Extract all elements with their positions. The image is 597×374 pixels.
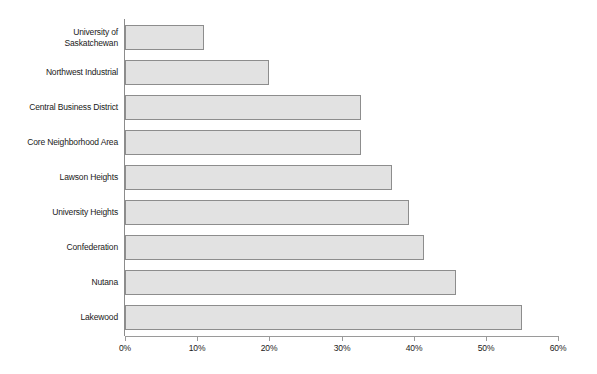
y-axis-label: Confederation — [0, 230, 118, 265]
x-axis-tick — [558, 336, 559, 341]
x-axis-tick — [342, 336, 343, 341]
y-axis-label-text: Central Business District — [0, 102, 118, 113]
bar-row — [125, 230, 558, 265]
bar — [125, 270, 456, 295]
y-axis-label: Lawson Heights — [0, 160, 118, 195]
x-axis-tick-label: 40% — [392, 343, 436, 353]
bar-row — [125, 265, 558, 300]
x-axis-tick — [197, 336, 198, 341]
y-axis-label-text: Core Neighborhood Area — [0, 137, 118, 148]
x-axis-tick-label: 50% — [464, 343, 508, 353]
y-axis-label: Lakewood — [0, 300, 118, 335]
x-axis-tick-label: 30% — [320, 343, 364, 353]
y-axis-label-text: Confederation — [0, 242, 118, 253]
y-axis-label-text: University ofSaskatchewan — [0, 27, 118, 49]
bar — [125, 305, 522, 330]
y-axis-label: Core Neighborhood Area — [0, 125, 118, 160]
bar-chart: University ofSaskatchewanNorthwest Indus… — [0, 0, 597, 374]
bar-row — [125, 55, 558, 90]
bar — [125, 165, 392, 190]
x-axis-tick — [125, 336, 126, 341]
bar — [125, 60, 269, 85]
x-axis-tick-label: 60% — [536, 343, 580, 353]
x-axis-tick — [486, 336, 487, 341]
y-axis-label-text: Northwest Industrial — [0, 67, 118, 78]
bar-row — [125, 160, 558, 195]
y-axis-category-labels: University ofSaskatchewanNorthwest Indus… — [0, 20, 120, 335]
plot-area — [125, 20, 558, 335]
bar — [125, 25, 204, 50]
y-axis-label: Central Business District — [0, 90, 118, 125]
y-axis-label-text: Lakewood — [0, 312, 118, 323]
y-axis-label: University Heights — [0, 195, 118, 230]
x-axis-tick-label: 0% — [103, 343, 147, 353]
x-axis-tick-label: 20% — [247, 343, 291, 353]
bar-row — [125, 20, 558, 55]
bar-row — [125, 300, 558, 335]
bar — [125, 235, 424, 260]
x-axis-tick-label: 10% — [175, 343, 219, 353]
y-axis-label-text: Nutana — [0, 277, 118, 288]
x-axis-tick — [269, 336, 270, 341]
y-axis-label-text: University Heights — [0, 207, 118, 218]
x-axis-tick — [414, 336, 415, 341]
bar-row — [125, 195, 558, 230]
y-axis-label: Nutana — [0, 265, 118, 300]
bar-row — [125, 125, 558, 160]
y-axis-label: University ofSaskatchewan — [0, 20, 118, 55]
y-axis-label-text: Lawson Heights — [0, 172, 118, 183]
bar — [125, 200, 409, 225]
y-axis-label: Northwest Industrial — [0, 55, 118, 90]
bar — [125, 130, 361, 155]
bar-row — [125, 90, 558, 125]
bar — [125, 95, 361, 120]
